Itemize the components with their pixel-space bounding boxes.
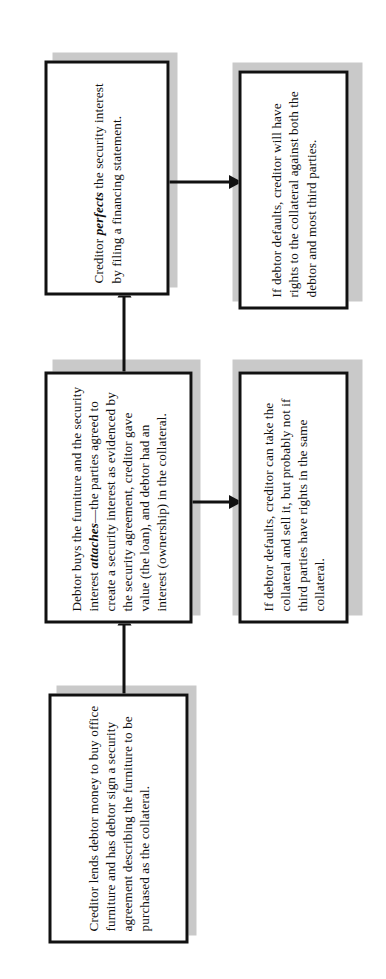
node-step2-text: Debtor buys the furniture and the securi…: [67, 374, 170, 620]
node-step2[interactable]: Debtor buys the furniture and the securi…: [44, 371, 192, 623]
connector-step2-step3: [122, 295, 125, 379]
node-step1-text: Creditor lends debtor money to buy offic…: [84, 696, 153, 940]
figure-page: Creditor lends debtor money to buy offic…: [0, 0, 386, 979]
node-outcome2-text: If debtor defaults, creditor can take th…: [259, 374, 328, 620]
node-step3-emphasis: perfects: [90, 192, 105, 235]
node-step1[interactable]: Creditor lends debtor money to buy offic…: [48, 693, 188, 943]
node-outcome3[interactable]: If debtor defaults, creditor will have r…: [238, 70, 348, 309]
node-step3-text: Creditor perfects the security interest …: [89, 63, 123, 292]
connector-step1-step2: [122, 623, 125, 701]
node-step2-emphasis: attaches: [85, 522, 100, 568]
node-outcome3-text: If debtor defaults, creditor will have r…: [267, 73, 318, 306]
flowchart-canvas: Creditor lends debtor money to buy offic…: [0, 0, 386, 979]
connector-step3-outcome3: [168, 180, 238, 183]
node-step3-text-before: Creditor: [90, 235, 105, 283]
node-step3[interactable]: Creditor perfects the security interest …: [44, 60, 169, 295]
node-outcome2[interactable]: If debtor defaults, creditor can take th…: [238, 371, 348, 623]
